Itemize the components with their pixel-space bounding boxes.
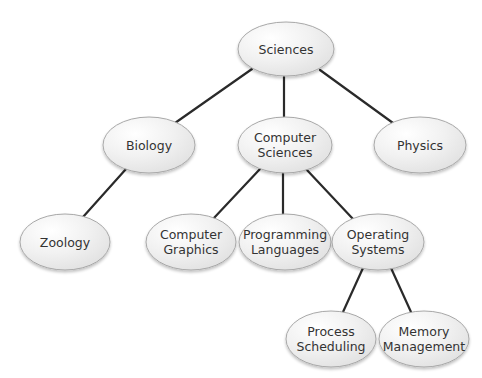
node-label: Management bbox=[383, 339, 465, 354]
node-label: Physics bbox=[397, 138, 443, 153]
node-label: Programming bbox=[243, 227, 327, 242]
edge-sciences-to-physics bbox=[320, 70, 393, 123]
node-computer-graphics[interactable]: ComputerGraphics bbox=[146, 214, 236, 270]
node-label: Languages bbox=[251, 242, 319, 257]
tree-diagram: SciencesBiologyComputerSciencesPhysicsZo… bbox=[0, 0, 482, 378]
node-label: Scheduling bbox=[296, 339, 365, 354]
node-memory-management[interactable]: MemoryManagement bbox=[379, 311, 469, 367]
node-label: Sciences bbox=[258, 145, 313, 160]
node-label: Graphics bbox=[163, 242, 218, 257]
node-label: Zoology bbox=[40, 235, 91, 250]
node-process-scheduling[interactable]: ProcessScheduling bbox=[286, 311, 376, 367]
edge-operating-systems-to-process-scheduling bbox=[343, 268, 363, 312]
node-computer-sciences[interactable]: ComputerSciences bbox=[238, 117, 332, 173]
node-operating-systems[interactable]: OperatingSystems bbox=[332, 214, 424, 270]
node-programming-languages[interactable]: ProgrammingLanguages bbox=[239, 214, 331, 270]
node-label: Memory bbox=[399, 324, 450, 339]
node-label: Biology bbox=[126, 138, 173, 153]
edge-sciences-to-biology bbox=[175, 69, 252, 123]
node-biology[interactable]: Biology bbox=[103, 117, 195, 173]
node-label: Operating bbox=[347, 227, 410, 242]
edge-biology-to-zoology bbox=[83, 169, 126, 217]
node-label: Computer bbox=[254, 130, 317, 145]
node-label: Systems bbox=[351, 242, 404, 257]
node-label: Process bbox=[307, 324, 354, 339]
node-sciences[interactable]: Sciences bbox=[238, 22, 334, 76]
edge-computer-sciences-to-computer-graphics bbox=[213, 169, 260, 219]
edge-computer-sciences-to-operating-systems bbox=[306, 169, 353, 219]
node-physics[interactable]: Physics bbox=[374, 117, 466, 173]
node-label: Computer bbox=[160, 227, 223, 242]
node-zoology[interactable]: Zoology bbox=[20, 214, 110, 270]
edges-layer bbox=[83, 69, 411, 312]
node-label: Sciences bbox=[259, 42, 314, 57]
edge-operating-systems-to-memory-management bbox=[391, 268, 411, 312]
